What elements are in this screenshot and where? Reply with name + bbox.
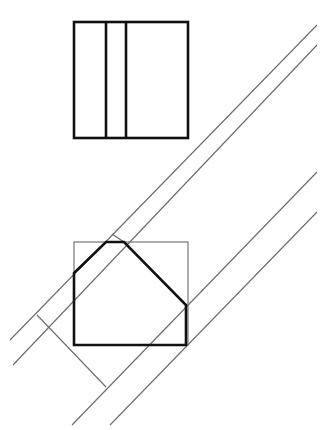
front-view-pentagon [74, 242, 186, 345]
top-view-rectangle [74, 22, 188, 138]
top-view [74, 22, 188, 138]
projection-lines [10, 25, 317, 425]
front-view [74, 242, 188, 345]
projection-line-lower-c [72, 172, 317, 425]
projection-line-upper-a [10, 25, 317, 340]
projection-line-lower-d [110, 212, 317, 425]
projection-line-upper-b [13, 45, 317, 365]
diagram-canvas [0, 0, 333, 430]
perpendicular-line [37, 315, 106, 387]
